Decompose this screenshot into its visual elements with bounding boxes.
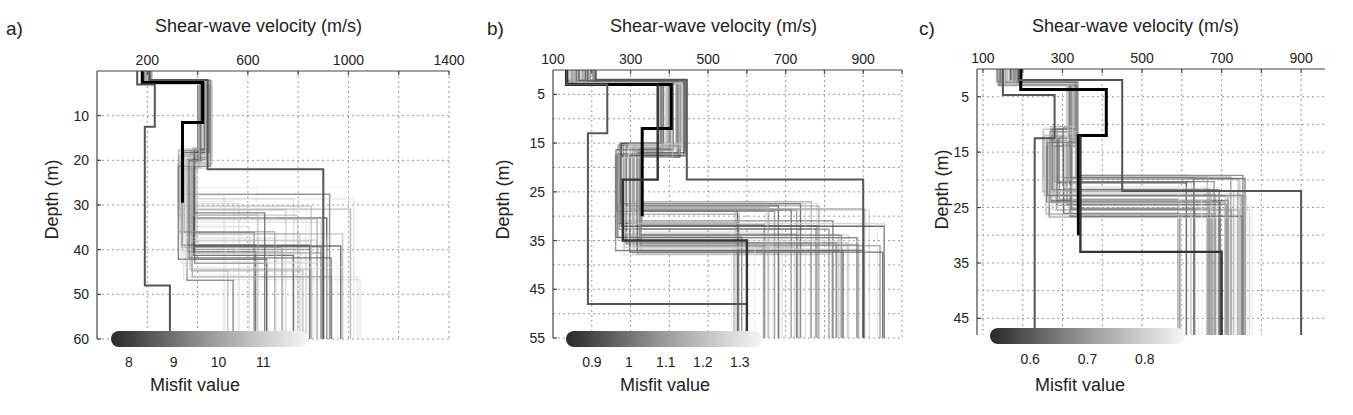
colorbar-tick-label: 0.6 <box>1020 351 1040 367</box>
x-tick-label: 900 <box>1289 50 1313 66</box>
y-tick-label: 25 <box>953 200 969 216</box>
colorbar-tick-label: 0.7 <box>1078 351 1098 367</box>
panel-c: c)Shear-wave velocity (m/s)Depth (m)Misf… <box>0 0 1353 415</box>
x-tick-label: 100 <box>971 50 995 66</box>
colorbar-tick-label: 0.8 <box>1135 351 1155 367</box>
x-tick-label: 300 <box>1051 50 1075 66</box>
plot-area: 1003005007009005152535450.60.70.8 <box>0 0 1353 415</box>
y-tick-label: 15 <box>953 144 969 160</box>
x-tick-label: 700 <box>1210 50 1234 66</box>
x-tick-label: 500 <box>1130 50 1154 66</box>
colorbar <box>990 328 1185 344</box>
y-tick-label: 35 <box>953 255 969 271</box>
y-tick-label: 5 <box>961 89 969 105</box>
secondary-model-line <box>1080 136 1221 336</box>
y-tick-label: 45 <box>953 310 969 326</box>
